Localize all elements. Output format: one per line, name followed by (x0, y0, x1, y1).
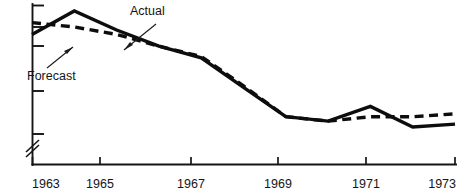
line-chart: Actual Forecast 1963 1965 1967 1969 1971… (0, 0, 469, 195)
x-axis-label-1967: 1967 (177, 177, 205, 191)
x-axis-label-1963: 1963 (32, 177, 60, 191)
series-line-forecast (32, 23, 455, 122)
series-label-actual: Actual (130, 4, 165, 18)
x-axis-label-1973: 1973 (428, 177, 456, 191)
x-axis-label-1971: 1971 (352, 177, 380, 191)
series-line-actual (32, 11, 455, 127)
x-axis-label-1965: 1965 (86, 177, 114, 191)
chart-canvas: Actual Forecast 1963 1965 1967 1969 1971… (0, 0, 469, 195)
series-label-forecast: Forecast (27, 69, 76, 83)
x-axis-label-1969: 1969 (264, 177, 292, 191)
